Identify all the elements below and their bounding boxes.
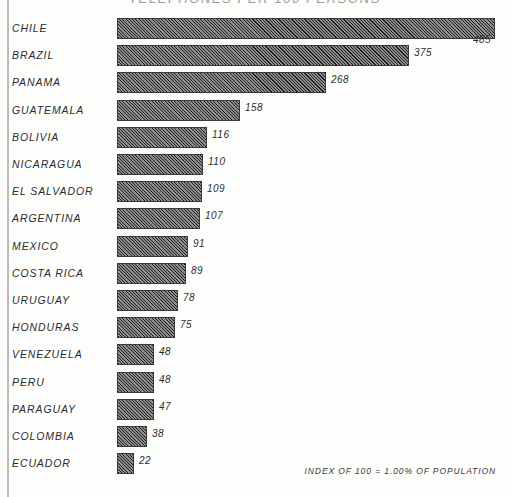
- bar: [117, 426, 147, 447]
- category-label: COSTA RICA: [12, 259, 112, 287]
- bar: [117, 344, 154, 365]
- chart-row: CHILE485: [0, 14, 510, 42]
- bar-value-label: 22: [139, 455, 151, 466]
- category-label: PERU: [12, 368, 112, 396]
- chart-row: COLOMBIA38: [0, 422, 510, 450]
- bar-value-label: 48: [159, 346, 171, 357]
- chart-row: URUGUAY78: [0, 286, 510, 314]
- category-label: COLOMBIA: [12, 422, 112, 450]
- bar-value-label: 375: [414, 47, 432, 58]
- bar-value-label: 107: [205, 210, 223, 221]
- bar: [117, 399, 154, 420]
- category-label: ARGENTINA: [12, 204, 112, 232]
- category-label: MEXICO: [12, 232, 112, 260]
- bar: [117, 263, 186, 284]
- bar-value-label: 110: [208, 156, 225, 167]
- chart-row: HONDURAS75: [0, 313, 510, 341]
- category-label: CHILE: [12, 14, 112, 42]
- chart-row: ARGENTINA107: [0, 204, 510, 232]
- bar-value-label: 75: [180, 319, 192, 330]
- bar-value-label: 158: [245, 102, 263, 113]
- bar: [117, 45, 409, 66]
- chart-row: BOLIVIA116: [0, 123, 510, 151]
- chart-row: MEXICO91: [0, 232, 510, 260]
- bar-value-label: 48: [159, 374, 171, 385]
- chart-row: VENEZUELA48: [0, 340, 510, 368]
- bar-chart-plot: CHILE485BRAZIL375PANAMA268GUATEMALA158BO…: [0, 14, 510, 476]
- bar: [117, 236, 188, 257]
- category-label: NICARAGUA: [12, 150, 112, 178]
- bar: [117, 372, 154, 393]
- chart-row: PANAMA268: [0, 68, 510, 96]
- bar: [117, 290, 178, 311]
- category-label: URUGUAY: [12, 286, 112, 314]
- bar: [117, 453, 134, 474]
- chart-row: PARAGUAY47: [0, 395, 510, 423]
- chart-row: EL SALVADOR109: [0, 177, 510, 205]
- category-label: EL SALVADOR: [12, 177, 112, 205]
- bar-value-label: 38: [152, 428, 164, 439]
- bar: [117, 127, 207, 148]
- bar-value-label: 91: [193, 238, 205, 249]
- chart-row: GUATEMALA158: [0, 96, 510, 124]
- bar: [117, 317, 175, 338]
- bar-value-label: 116: [212, 129, 229, 140]
- chart-footnote: INDEX OF 100 = 1.00% OF POPULATION: [305, 466, 496, 476]
- chart-page: TELEPHONES PER 100 PERSONS CHILE485BRAZI…: [0, 0, 510, 497]
- bar-value-label: 47: [159, 401, 171, 412]
- bar: [117, 72, 326, 93]
- bar: [117, 181, 202, 202]
- category-label: VENEZUELA: [12, 340, 112, 368]
- category-label: PARAGUAY: [12, 395, 112, 423]
- category-label: HONDURAS: [12, 313, 112, 341]
- category-label: BRAZIL: [12, 41, 112, 69]
- bar-value-label: 89: [191, 265, 203, 276]
- chart-row: COSTA RICA89: [0, 259, 510, 287]
- bar-value-label: 268: [331, 74, 349, 85]
- chart-title: TELEPHONES PER 100 PERSONS: [0, 0, 510, 6]
- bar: [117, 18, 495, 39]
- bar: [117, 208, 200, 229]
- bar: [117, 154, 203, 175]
- category-label: BOLIVIA: [12, 123, 112, 151]
- bar-value-label: 78: [183, 292, 195, 303]
- category-label: GUATEMALA: [12, 96, 112, 124]
- chart-row: BRAZIL375: [0, 41, 510, 69]
- bar-value-label: 109: [207, 183, 225, 194]
- chart-row: NICARAGUA110: [0, 150, 510, 178]
- chart-row: PERU48: [0, 368, 510, 396]
- bar: [117, 100, 240, 121]
- category-label: PANAMA: [12, 68, 112, 96]
- category-label: ECUADOR: [12, 449, 112, 477]
